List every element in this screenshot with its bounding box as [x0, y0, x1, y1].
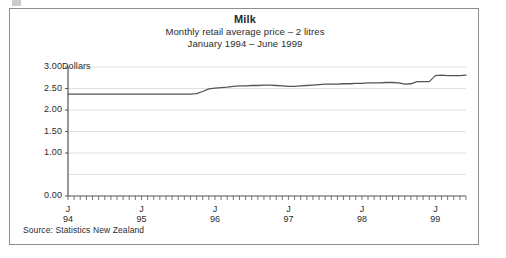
x-axis-year-label: 96	[200, 214, 230, 224]
y-axis-tick-label: 1.00	[32, 147, 62, 157]
x-axis-year-label: 99	[420, 214, 450, 224]
y-axis-tick-label: 1.50	[32, 126, 62, 136]
x-axis-year-label: 97	[273, 214, 303, 224]
scan-artifact	[12, 0, 21, 6]
y-axis-tick-label: 2.50	[32, 83, 62, 93]
x-axis-month-label: J	[273, 204, 303, 214]
gridlines	[68, 67, 466, 175]
x-axis-tick-label: J97	[273, 204, 303, 224]
x-axis-tick-label: J98	[347, 204, 377, 224]
y-axis-unit-label: Dollars	[62, 61, 91, 71]
x-axis-month-label: J	[126, 204, 156, 214]
y-axis-tick-label: 0.00	[32, 190, 62, 200]
x-axis-minor-ticks	[68, 196, 466, 200]
x-axis-month-label: J	[347, 204, 377, 214]
milk-price-line	[68, 75, 466, 94]
y-axis-tick-label: 3.00	[32, 61, 62, 71]
x-axis-year-label: 94	[53, 214, 83, 224]
plot-area: Dollars 3.002.502.001.501.000.00 J94J95J…	[10, 9, 480, 246]
x-axis-month-label: J	[420, 204, 450, 214]
source-note: Source: Statistics New Zealand	[23, 225, 144, 235]
chart-figure-frame: Milk Monthly retail average price – 2 li…	[9, 8, 479, 245]
x-axis-tick-label: J95	[126, 204, 156, 224]
x-axis-year-label: 95	[126, 214, 156, 224]
x-axis-month-label: J	[200, 204, 230, 214]
x-axis-tick-label: J96	[200, 204, 230, 224]
x-axis-year-label: 98	[347, 214, 377, 224]
x-axis-month-label: J	[53, 204, 83, 214]
x-axis-tick-label: J99	[420, 204, 450, 224]
y-axis-tick-label: 2.00	[32, 104, 62, 114]
x-axis-tick-label: J94	[53, 204, 83, 224]
